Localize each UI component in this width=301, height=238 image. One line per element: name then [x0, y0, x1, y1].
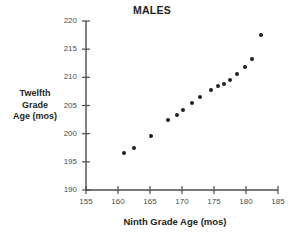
x-axis-tick-label: 170 — [170, 197, 194, 206]
data-point — [175, 113, 179, 117]
data-point — [235, 72, 239, 76]
axes-group — [86, 21, 278, 190]
y-axis-tick-label: 190 — [55, 185, 77, 194]
y-axis-tick-label: 195 — [55, 157, 77, 166]
data-point — [198, 95, 202, 99]
data-point — [222, 82, 226, 86]
y-axis-tick-label: 210 — [55, 72, 77, 81]
data-point — [259, 33, 263, 37]
x-axis-tick-label: 185 — [266, 197, 290, 206]
x-axis-tick-label: 180 — [234, 197, 258, 206]
x-axis-tick-label: 165 — [138, 197, 162, 206]
x-axis-tick-label: 160 — [106, 197, 130, 206]
x-axis-tick-label: 175 — [202, 197, 226, 206]
data-point — [132, 146, 136, 150]
x-axis-tick-label: 155 — [74, 197, 98, 206]
data-point — [243, 65, 247, 69]
y-axis-tick-label: 200 — [55, 129, 77, 138]
y-axis-tick-label: 220 — [55, 16, 77, 25]
y-axis-tick-label: 215 — [55, 44, 77, 53]
scatter-plot-figure: MALES Twelfth Grade Age (mos) Ninth Grad… — [0, 0, 301, 238]
y-axis-tick-label: 205 — [55, 101, 77, 110]
